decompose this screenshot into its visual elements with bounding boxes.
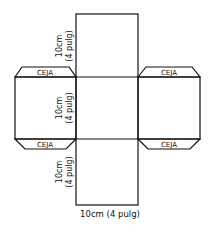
dim-top-line2: (4 pulg) <box>65 30 74 61</box>
central-column <box>76 14 138 205</box>
dim-bottom-width: 10cm (4 pulg) <box>80 209 140 219</box>
flap-label-top-left: CEJA <box>37 69 53 77</box>
cube-net-diagram: CEJA CEJA CEJA CEJA 10cm (4 pulg) 10cm (… <box>0 0 213 241</box>
dim-top-line1: 10cm <box>55 35 64 58</box>
dim-middle-line1: 10cm <box>55 97 64 120</box>
right-panel <box>138 77 200 139</box>
flap-label-bottom-right: CEJA <box>161 141 177 149</box>
dim-bottom-line1: 10cm <box>55 161 64 184</box>
dim-bottom-line2: (4 pulg) <box>65 156 74 187</box>
flap-label-top-right: CEJA <box>161 69 177 77</box>
flap-label-bottom-left: CEJA <box>37 141 53 149</box>
dim-middle-line2: (4 pulg) <box>65 92 74 123</box>
